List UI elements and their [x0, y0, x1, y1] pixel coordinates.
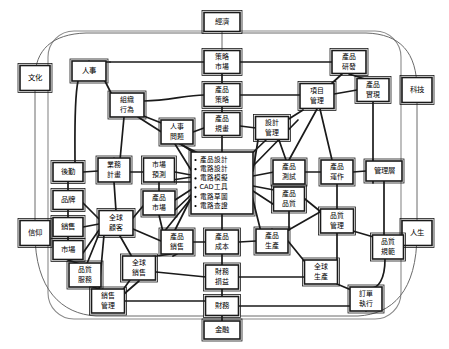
node-product-quality[interactable]: 產品品質: [272, 185, 307, 213]
node-brand[interactable]: 品牌: [51, 189, 85, 212]
node-product-rd[interactable]: 產品研發: [330, 49, 368, 76]
node-label: 研發: [342, 62, 356, 71]
node-label: 銷售: [132, 268, 146, 277]
bullet-icon: [194, 196, 196, 198]
node-label: 信仰: [28, 228, 42, 237]
node-label: 品質: [78, 265, 92, 274]
node-label: 全球: [109, 213, 123, 222]
node-label: 執行: [359, 299, 373, 308]
node-label: 市場: [152, 203, 166, 212]
core-item-label: 電路設計: [200, 164, 228, 173]
node-management-layer[interactable]: 管理層: [364, 159, 404, 183]
node-finance[interactable]: 財務: [204, 295, 241, 318]
node-label: 市場: [215, 62, 229, 71]
core-item-label: 電路查證: [200, 201, 228, 210]
node-product-cost[interactable]: 產品成本: [204, 228, 241, 256]
node-quality-mgmt[interactable]: 品質管理: [319, 207, 356, 235]
node-org-behavior[interactable]: 組織行為: [108, 91, 146, 119]
node-label: 管理層: [374, 166, 395, 175]
node-product-plan[interactable]: 產品規畫: [202, 111, 242, 138]
node-label: 組織: [120, 95, 134, 104]
node-label: 預測: [152, 170, 166, 179]
node-quality-service[interactable]: 品質服務: [67, 261, 103, 289]
bullet-icon: [194, 177, 196, 179]
node-label: 人事: [170, 122, 184, 131]
node-design-mgmt[interactable]: 設計管理: [254, 115, 291, 142]
node-global-sales[interactable]: 全球銷售: [121, 254, 158, 282]
node-label: 產品: [366, 80, 380, 89]
node-label: 項目: [310, 87, 324, 95]
node-label: 品質: [282, 199, 296, 208]
core-item-label: 電路草圖: [200, 192, 228, 201]
node-sales-mgmt[interactable]: 銷售管理: [90, 287, 127, 315]
node-product-test[interactable]: 產品測試: [271, 158, 307, 186]
core-item-label: 電路模擬: [200, 173, 228, 182]
node-market-forecast[interactable]: 市場預測: [142, 156, 177, 184]
node-finance-pl[interactable]: 財務損益: [204, 263, 241, 291]
node-sales[interactable]: 銷售: [51, 216, 85, 239]
node-label: 規畫: [215, 124, 229, 133]
node-label: 策略: [215, 52, 229, 61]
node-label: 生產: [314, 272, 328, 281]
node-label: 財務: [215, 301, 230, 310]
node-label: 銷售: [61, 222, 75, 231]
node-global-produce[interactable]: 全球生產: [303, 258, 340, 286]
outer-label-economy[interactable]: 經濟: [202, 11, 242, 34]
node-label: 成本: [215, 242, 229, 251]
node-label: 品質: [381, 237, 395, 246]
node-business-plan[interactable]: 業務計畫: [96, 156, 132, 184]
node-product-market[interactable]: 產品市場: [141, 189, 177, 217]
node-label: 銷售: [170, 242, 184, 251]
node-strategy-market[interactable]: 策略市場: [202, 49, 242, 76]
node-label: 業務: [107, 160, 121, 169]
node-label: 品質: [330, 211, 344, 220]
node-label: 管理: [265, 128, 279, 137]
node-label: 訂單: [359, 289, 373, 298]
node-label: 金融: [215, 325, 230, 334]
node-product-strategy[interactable]: 產品策略: [202, 82, 242, 109]
node-label: 產品: [170, 232, 184, 241]
concept-relationship-diagram: 經濟文化科技信仰人生金融 策略市場產品研發人事產品策略產品實現項目管理組織行為產…: [0, 0, 449, 349]
node-product-produce[interactable]: 產品生產: [254, 227, 290, 255]
node-quality-spec[interactable]: 品質規範: [371, 233, 406, 261]
core-item-label: 產品設計: [200, 155, 228, 164]
node-product-sales[interactable]: 產品銷售: [159, 228, 195, 256]
core-item-label: CAD工具: [200, 183, 228, 191]
bullet-icon: [194, 205, 196, 207]
node-market[interactable]: 市場: [51, 239, 85, 262]
node-label: 產品: [330, 162, 344, 171]
node-label: 生產: [265, 241, 279, 250]
node-label: 損益: [215, 277, 229, 286]
node-product-operate[interactable]: 產品運作: [319, 158, 355, 186]
node-label: 設計: [265, 118, 279, 127]
bullet-icon: [194, 187, 196, 189]
node-project-mgmt[interactable]: 項目管理: [298, 82, 336, 111]
node-hr[interactable]: 人事: [70, 59, 108, 83]
node-label: 科技: [410, 85, 425, 94]
node-design-core[interactable]: 產品設計電路設計電路模擬CAD工具電路草圖電路查證: [189, 150, 255, 216]
node-product-realize[interactable]: 產品實現: [355, 77, 391, 104]
node-label: 財務: [215, 267, 229, 276]
node-label: 策略: [215, 95, 229, 104]
node-order-exec[interactable]: 訂單執行: [348, 285, 384, 313]
node-label: 人生: [410, 228, 424, 237]
node-label: 測試: [282, 172, 296, 181]
node-label: 銷售: [101, 291, 115, 300]
node-label: 管理: [330, 221, 344, 230]
node-label: 顧客: [109, 223, 123, 232]
node-label: 產品: [342, 52, 356, 61]
bullet-icon: [194, 168, 196, 170]
node-label: 全球: [314, 262, 328, 271]
node-label: 服務: [78, 275, 92, 284]
outer-label-technology[interactable]: 科技: [400, 76, 434, 105]
outer-label-belief[interactable]: 信仰: [18, 219, 52, 248]
node-logistics[interactable]: 後勤: [51, 161, 85, 184]
outer-label-culture[interactable]: 文化: [18, 64, 52, 93]
node-label: 市場: [152, 160, 166, 169]
node-global-customer[interactable]: 全球顧客: [97, 209, 135, 238]
node-label: 管理: [101, 301, 115, 310]
node-hr-issues[interactable]: 人事問題: [159, 118, 195, 146]
node-label: 後勤: [61, 167, 75, 176]
node-label: 問題: [170, 133, 184, 141]
outer-label-finance_o[interactable]: 金融: [202, 319, 242, 341]
